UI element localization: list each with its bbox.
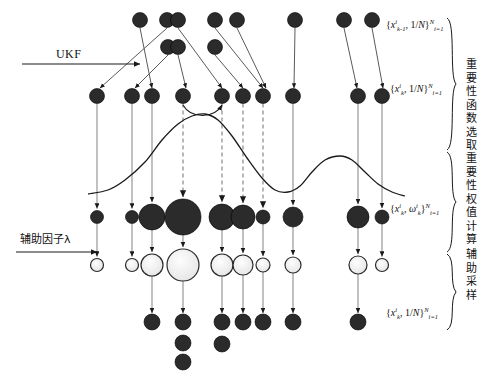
ukf-fan-arrow	[140, 28, 152, 88]
particle-node-prior	[208, 13, 223, 28]
particle-node-weighted	[165, 199, 201, 235]
brace-auxiliary-sampling	[447, 254, 456, 330]
particle-node-resampled	[175, 354, 191, 370]
particle-node-resampled	[175, 335, 191, 351]
particle-node-resampled	[285, 314, 301, 330]
ukf-fan-arrow	[372, 28, 383, 88]
particle-node-predicted	[125, 89, 140, 104]
ukf-fan-arrow	[215, 28, 263, 88]
ukf-fan-arrow	[215, 55, 243, 88]
particle-node-auxiliary	[91, 259, 104, 272]
math-label-predicted-particles: {xik, 1/N}Ni=1	[390, 82, 442, 96]
ukf-fan-arrow	[344, 28, 357, 88]
math-label-prior-particles: {xik-1, 1/N}Ni=1	[386, 18, 443, 32]
math-label-resampled-particles: {xik, 1/N}Ni=1	[386, 306, 438, 320]
particle-node-predicted	[215, 89, 230, 104]
particle-node-weighted	[231, 205, 255, 229]
particle-node-weighted	[375, 210, 389, 224]
stage-label-importance-function-selection: 重要性函数选取	[464, 58, 479, 153]
particle-node-auxiliary	[349, 256, 367, 274]
particle-node-resampled	[255, 314, 271, 330]
particle-node-prior	[288, 13, 303, 28]
particle-node-weighted	[139, 204, 165, 230]
particle-node-predicted	[90, 89, 105, 104]
particle-node-weighted	[256, 210, 270, 224]
left-input-arrows	[16, 64, 140, 252]
particle-node-auxiliary	[285, 257, 301, 273]
particle-node-predicted	[351, 89, 366, 104]
particle-node-prior	[337, 13, 352, 28]
particle-node-resampled	[214, 336, 230, 352]
stage-braces	[447, 18, 456, 330]
particle-node-auxiliary	[167, 249, 199, 281]
label-ukf: UKF	[56, 47, 81, 62]
particle-node-resampled	[214, 314, 230, 330]
particle-node-predicted	[256, 89, 271, 104]
particle-node-auxiliary	[376, 259, 389, 272]
particle-node-prior	[133, 13, 148, 28]
ukf-fan-arrow	[178, 28, 222, 88]
particle-node-weighted	[283, 207, 303, 227]
brace-importance-weight-computation	[447, 152, 456, 252]
particle-node-auxiliary	[256, 258, 270, 272]
particle-node-weighted	[347, 206, 369, 228]
particle-node-weighted	[91, 211, 104, 224]
math-label-weighted-particles: {xik, ωik}Ni=1	[390, 202, 439, 216]
particle-node-resampled	[175, 314, 191, 330]
particle-node-prior	[365, 13, 380, 28]
particle-node-predicted	[145, 89, 160, 104]
particle-nodes	[90, 13, 390, 371]
ukf-fan-arrow	[294, 28, 295, 88]
brace-importance-function-selection	[447, 18, 456, 150]
particle-node-auxiliary	[211, 254, 233, 276]
particle-node-resampled	[350, 314, 366, 330]
particle-node-predicted	[286, 89, 301, 104]
ukf-fan-arrow	[178, 55, 186, 88]
particle-node-prior	[171, 40, 186, 55]
stage-label-importance-weight-computation: 重要性权值计算	[464, 152, 479, 247]
particle-node-weighted	[126, 211, 139, 224]
particle-node-resampled	[144, 314, 160, 330]
ukf-fan-arrow	[237, 28, 266, 88]
particle-node-auxiliary	[233, 255, 253, 275]
stage-label-auxiliary-sampling: 辅助采样	[464, 248, 479, 302]
particle-node-prior	[230, 13, 245, 28]
particle-node-predicted	[375, 89, 390, 104]
particle-node-auxiliary	[141, 254, 163, 276]
particle-node-predicted	[236, 89, 251, 104]
figure-root: UKF 辅助因子λ {xik-1, 1/N}Ni=1 {xik, 1/N}Ni=…	[0, 0, 488, 373]
particle-node-prior	[171, 13, 186, 28]
math-weighted-text: {xik, ωik}Ni=1	[390, 203, 439, 214]
particle-node-predicted	[176, 89, 191, 104]
math-predicted-text: {xik, 1/N}Ni=1	[390, 83, 442, 94]
particle-node-auxiliary	[126, 259, 139, 272]
label-auxiliary-factor: 辅助因子λ	[20, 230, 71, 246]
math-resampled-text: {xik, 1/N}Ni=1	[386, 307, 438, 318]
particle-node-prior	[208, 40, 223, 55]
math-prior-text: {xik-1, 1/N}Ni=1	[386, 19, 443, 30]
ukf-fan-arrow	[100, 28, 167, 88]
particle-node-resampled	[235, 314, 251, 330]
